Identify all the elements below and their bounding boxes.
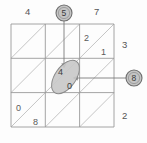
ellipse-value-lower: 0 [67, 82, 72, 91]
outer-label-right-upper: 3 [122, 40, 127, 50]
outer-label-right-lower: 2 [122, 111, 127, 121]
diagonal-r2c1 [45, 93, 79, 127]
outer-label-top-right: 7 [94, 7, 99, 17]
cell-label-r0c2-lower: 1 [101, 48, 106, 57]
diagonal-r0c0 [11, 24, 45, 58]
diagonal-r1c2 [80, 58, 114, 92]
callout-badge-top-label: 5 [62, 9, 67, 18]
grid-diagram-figure: 4 7 3 2 2 1 0 8 4 0 5 8 [0, 0, 147, 143]
diagonal-r0c1 [45, 24, 79, 58]
cell-label-r0c2-upper: 2 [84, 34, 89, 43]
highlight-ellipse [46, 55, 85, 98]
outer-label-top-left: 4 [25, 7, 30, 17]
cell-label-r2c0-upper: 0 [16, 104, 21, 113]
callout-badge-right-label: 8 [132, 74, 137, 83]
diagram-canvas [0, 0, 147, 143]
cell-label-r2c0-lower: 8 [33, 118, 38, 127]
ellipse-value-upper: 4 [58, 68, 63, 77]
diagonal-r2c2 [80, 93, 114, 127]
diagonal-r1c0 [11, 58, 45, 92]
